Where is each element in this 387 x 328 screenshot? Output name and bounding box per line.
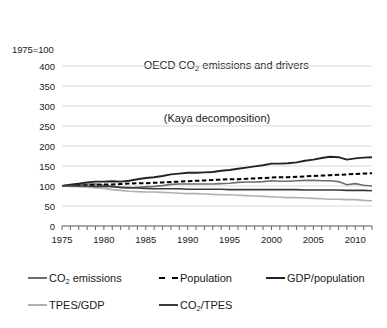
svg-text:250: 250: [39, 121, 55, 132]
svg-text:100: 100: [39, 181, 55, 192]
legend-swatch-population: [159, 273, 178, 283]
legend-swatch-gdp-per-population: [266, 273, 285, 283]
svg-text:50: 50: [44, 201, 55, 212]
svg-text:1975: 1975: [51, 234, 72, 245]
chart-plot-area: 050100150200250300350400 197519801985199…: [0, 0, 387, 268]
svg-text:2010: 2010: [345, 234, 366, 245]
gridlines: [62, 66, 372, 226]
svg-text:0: 0: [50, 221, 55, 232]
legend-swatch-co2-emissions: [28, 273, 47, 283]
legend-label-gdp-per-population: GDP/population: [287, 272, 365, 284]
svg-text:400: 400: [39, 61, 55, 72]
svg-text:1985: 1985: [135, 234, 156, 245]
svg-text:200: 200: [39, 141, 55, 152]
legend-item-co2-emissions[interactable]: CO2 emissions: [28, 268, 122, 288]
svg-text:2005: 2005: [303, 234, 324, 245]
svg-text:350: 350: [39, 81, 55, 92]
chart-legend: CO2 emissions Population GDP/population …: [0, 268, 387, 326]
legend-row-2: TPES/GDP CO2/TPES: [0, 295, 387, 319]
legend-item-tpes-per-gdp[interactable]: TPES/GDP: [28, 295, 105, 315]
x-axis-tick-marks: [62, 226, 372, 230]
svg-text:1995: 1995: [219, 234, 240, 245]
legend-label-co2-emissions: CO2 emissions: [49, 272, 122, 284]
svg-text:2000: 2000: [261, 234, 282, 245]
svg-text:1990: 1990: [177, 234, 198, 245]
series-line-tpes-gdp: [62, 186, 372, 201]
data-series-group: [62, 157, 372, 201]
legend-item-co2-per-tpes[interactable]: CO2/TPES: [159, 295, 232, 315]
legend-label-tpes-per-gdp: TPES/GDP: [49, 299, 105, 311]
legend-item-population[interactable]: Population: [159, 268, 232, 288]
legend-row-1: CO2 emissions Population GDP/population: [0, 268, 387, 292]
x-axis-tick-labels: 19751980198519901995200020052010: [51, 234, 365, 245]
legend-label-co2-per-tpes: CO2/TPES: [180, 299, 232, 311]
svg-text:150: 150: [39, 161, 55, 172]
svg-text:300: 300: [39, 101, 55, 112]
legend-swatch-tpes-per-gdp: [28, 300, 47, 310]
series-line-gdp-population: [62, 157, 372, 186]
legend-label-population: Population: [180, 272, 232, 284]
legend-swatch-co2-per-tpes: [159, 300, 178, 310]
chart-container: OECD CO2 emissions and drivers (Kaya dec…: [0, 0, 387, 328]
legend-item-gdp-per-population[interactable]: GDP/population: [266, 268, 365, 288]
svg-text:1980: 1980: [93, 234, 114, 245]
y-axis-tick-labels: 050100150200250300350400: [39, 61, 55, 232]
